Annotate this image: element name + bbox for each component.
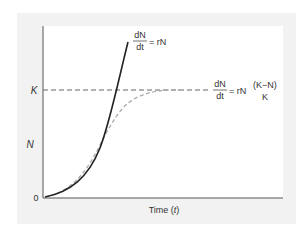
y-tick-zero: 0 [33, 193, 38, 203]
svg-text:dN: dN [214, 79, 226, 89]
svg-text:dN: dN [134, 30, 146, 40]
chart-svg: K 0 N Time (t) dN dt = rN dN dt = rN (K−… [0, 0, 308, 234]
y-tick-k: K [31, 85, 39, 96]
svg-text:(K−N): (K−N) [253, 80, 277, 90]
svg-text:= rN: = rN [149, 37, 166, 47]
svg-text:K: K [262, 92, 268, 102]
plot-area [43, 26, 283, 198]
svg-text:dt: dt [136, 42, 144, 52]
y-axis-label: N [26, 139, 34, 150]
x-axis-label: Time (t) [149, 205, 180, 215]
svg-text:dt: dt [216, 91, 224, 101]
svg-text:= rN: = rN [229, 86, 246, 96]
